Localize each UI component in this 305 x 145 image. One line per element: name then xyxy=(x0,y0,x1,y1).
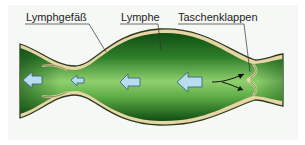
lymph-fluid xyxy=(20,33,283,121)
lymph-vessel-diagram: Lymphgefäß Lymphe Taschenklappen xyxy=(0,0,305,145)
label-taschenklappen: Taschenklappen xyxy=(178,11,258,23)
diagram-frame: Lymphgefäß Lymphe Taschenklappen xyxy=(0,0,305,145)
label-lymphgefaess: Lymphgefäß xyxy=(26,11,87,23)
label-lymphe: Lymphe xyxy=(121,11,160,23)
